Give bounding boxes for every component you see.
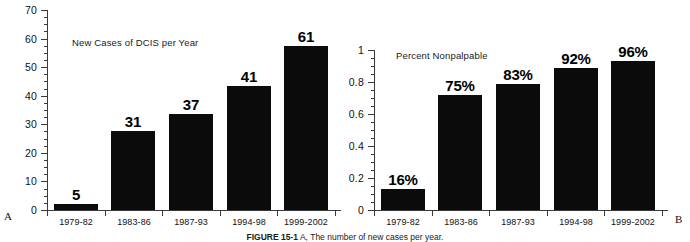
panel-letter-b: B: [675, 214, 682, 225]
y-axis-minor-tick: [44, 24, 47, 25]
y-axis-tick: [368, 50, 374, 51]
y-axis-tick-label: 30: [3, 119, 37, 130]
y-axis-tick: [41, 96, 47, 97]
y-axis-minor-tick: [44, 46, 47, 47]
y-axis-minor-tick: [44, 60, 47, 61]
x-axis-tick-label: 1983-86: [105, 218, 163, 227]
y-axis-minor-tick: [44, 53, 47, 54]
x-axis-tick: [489, 211, 490, 216]
y-axis-minor-tick: [44, 167, 47, 168]
y-axis-tick-label: 0.8: [330, 77, 364, 88]
x-axis-tick-label: 1979-82: [374, 218, 432, 227]
bar: [438, 95, 482, 210]
y-axis-minor-tick: [371, 74, 374, 75]
y-axis-line: [47, 10, 48, 211]
y-axis-tick-label: 70: [3, 5, 37, 16]
figure-caption-label: FIGURE 15-1: [247, 233, 299, 242]
y-axis-minor-tick: [44, 31, 47, 32]
y-axis-minor-tick: [44, 174, 47, 175]
y-axis-tick: [41, 181, 47, 182]
bar-value-label: 96%: [598, 44, 668, 59]
y-axis-minor-tick: [44, 103, 47, 104]
y-axis-minor-tick: [44, 146, 47, 147]
plot-title-a: New Cases of DCIS per Year: [72, 38, 198, 48]
y-axis-minor-tick: [44, 203, 47, 204]
y-axis-tick: [41, 153, 47, 154]
y-axis-tick: [41, 67, 47, 68]
x-axis-tick-label: 1987-93: [489, 218, 547, 227]
y-axis-minor-tick: [44, 160, 47, 161]
y-axis-tick: [368, 114, 374, 115]
y-axis-minor-tick: [44, 17, 47, 18]
y-axis-tick-label: 0: [330, 205, 364, 216]
bar-value-label: 5: [41, 187, 111, 202]
bar: [111, 131, 155, 210]
y-axis-minor-tick: [371, 122, 374, 123]
y-axis-minor-tick: [371, 98, 374, 99]
y-axis-tick: [41, 10, 47, 11]
panel-letter-a: A: [4, 211, 12, 222]
bar: [496, 84, 540, 210]
y-axis-tick: [41, 39, 47, 40]
x-axis-tick-label: 1999-2002: [604, 218, 662, 227]
x-axis-tick: [277, 211, 278, 216]
y-axis-minor-tick: [44, 131, 47, 132]
bar: [554, 68, 598, 210]
y-axis-tick-label: 0.2: [330, 173, 364, 184]
bar: [284, 46, 328, 210]
chart-panel-a: New Cases of DCIS per Year 0102030405060…: [0, 0, 345, 242]
x-axis-line: [47, 210, 341, 211]
y-axis-tick-label: 0.4: [330, 141, 364, 152]
bar-value-label: 41: [214, 69, 284, 84]
x-axis-line: [374, 210, 668, 211]
bar: [54, 204, 98, 210]
bar-value-label: 83%: [483, 67, 553, 82]
plot-area-a: New Cases of DCIS per Year 0102030405060…: [47, 10, 335, 210]
bar: [169, 114, 213, 210]
y-axis-minor-tick: [371, 58, 374, 59]
y-axis-minor-tick: [371, 138, 374, 139]
y-axis-minor-tick: [371, 170, 374, 171]
y-axis-tick-label: 60: [3, 34, 37, 45]
x-axis-tick-label: 1987-93: [162, 218, 220, 227]
y-axis-tick-label: 1: [330, 45, 364, 56]
figure-caption: FIGURE 15-1 A, The number of new cases p…: [0, 233, 690, 242]
bar: [611, 61, 655, 210]
chart-panel-b: Percent Nonpalpable 00.20.40.60.8116%197…: [345, 0, 690, 242]
y-axis-tick-label: 50: [3, 62, 37, 73]
bar-value-label: 31: [98, 114, 168, 129]
x-axis-tick-label: 1994-98: [220, 218, 278, 227]
y-axis-tick: [368, 146, 374, 147]
y-axis-tick-label: 0.6: [330, 109, 364, 120]
y-axis-tick-label: 20: [3, 148, 37, 159]
y-axis-minor-tick: [371, 66, 374, 67]
y-axis-tick: [41, 124, 47, 125]
y-axis-minor-tick: [371, 130, 374, 131]
y-axis-minor-tick: [44, 89, 47, 90]
y-axis-minor-tick: [44, 139, 47, 140]
y-axis-minor-tick: [371, 202, 374, 203]
y-axis-tick: [368, 82, 374, 83]
y-axis-minor-tick: [44, 81, 47, 82]
y-axis-minor-tick: [44, 117, 47, 118]
bar-value-label: 37: [156, 97, 226, 112]
y-axis-minor-tick: [371, 154, 374, 155]
y-axis-minor-tick: [371, 162, 374, 163]
y-axis-minor-tick: [44, 110, 47, 111]
plot-area-b: Percent Nonpalpable 00.20.40.60.8116%197…: [374, 50, 662, 210]
bar: [381, 189, 425, 210]
x-axis-tick: [547, 211, 548, 216]
bar-value-label: 16%: [368, 172, 438, 187]
x-axis-tick: [662, 211, 663, 216]
figure-caption-text: A, The number of new cases per year.: [300, 233, 443, 242]
y-axis-tick-label: 10: [3, 176, 37, 187]
bar-value-label: 61: [271, 29, 341, 44]
x-axis-tick: [105, 211, 106, 216]
y-axis-minor-tick: [371, 106, 374, 107]
x-axis-tick: [47, 211, 48, 216]
x-axis-tick-label: 1979-82: [47, 218, 105, 227]
y-axis-minor-tick: [371, 90, 374, 91]
plot-title-b: Percent Nonpalpable: [396, 51, 488, 61]
y-axis-tick-label: 40: [3, 91, 37, 102]
x-axis-tick: [374, 211, 375, 216]
